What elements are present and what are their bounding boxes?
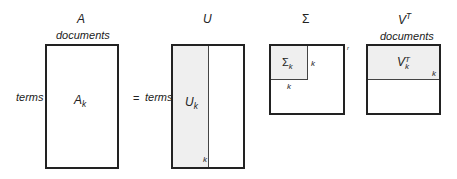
matrix-u-dim-label: k [203,155,207,164]
matrix-u: Uk k [171,44,245,169]
matrix-vt-top-label: documents [380,30,434,42]
matrix-vt-dim-label: k [432,69,436,78]
matrix-sigma-inner-label: Σk [282,56,293,71]
matrix-a-top-label: documents [56,29,110,41]
matrix-sigma-dim-bottom: k [287,82,291,91]
matrix-a-inner-label: Ak [74,93,86,109]
matrix-a: Ak [45,44,119,169]
matrix-sigma: Σk k k [269,44,345,115]
matrix-u-title: U [203,12,212,26]
matrix-a-side-label: terms [16,91,44,103]
matrix-vt: VTk k [366,44,441,115]
equals-sign: = [133,92,139,104]
matrix-a-title: A [77,12,85,26]
matrix-vt-inner-label: VTk [397,55,410,70]
matrix-vt-title: VT [398,11,411,27]
matrix-u-inner-label: Uk [185,95,198,111]
matrix-sigma-corner-label: r [347,45,349,51]
matrix-sigma-title: Σ [302,12,309,26]
matrix-sigma-dim-right: k [311,59,315,68]
matrix-u-side-label: terms [145,91,173,103]
